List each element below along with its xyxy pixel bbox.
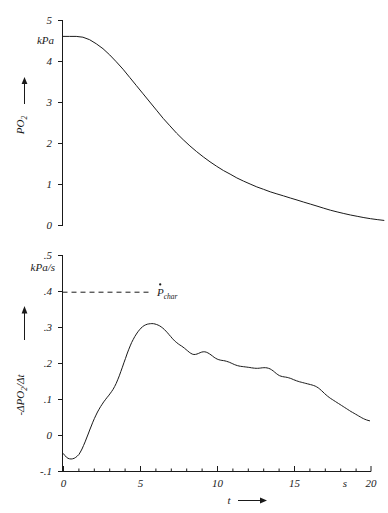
xticklabel-20: 20 (366, 477, 378, 489)
top-y-axis-title: PO2 (14, 77, 29, 135)
x-unit-label: s (343, 477, 347, 489)
bottom-yticklabel-p2: .2 (44, 357, 53, 369)
top-yticklabel-3: 3 (46, 96, 53, 108)
bottom-yticklabel-p4: .4 (44, 285, 53, 297)
x-axis-arrow-head (260, 498, 267, 504)
bottom-y-axis-title: -ΔPO2/Δt (14, 306, 29, 416)
bottom-yticklabel-p3: .3 (44, 321, 53, 333)
bottom-yticklabel-0: 0 (47, 429, 53, 441)
svg-text:Pchar: Pchar (156, 286, 178, 301)
xticklabel-5: 5 (138, 477, 144, 489)
bottom-axis-arrow-head (22, 306, 28, 314)
top-panel: 5 4 3 2 1 0 kPa PO2 (14, 14, 384, 231)
bottom-curve-rate (63, 324, 369, 459)
top-curve-po2 (63, 36, 384, 220)
bottom-yticklabel-p5: .5 (44, 249, 53, 261)
top-unit-label: kPa (37, 34, 55, 46)
pchar-overdot-icon (159, 283, 161, 285)
pchar-sub: char (164, 292, 178, 301)
top-yticklabel-1: 1 (47, 178, 53, 190)
top-yticklabel-2: 2 (47, 137, 53, 149)
bottom-unit-label: kPa/s (31, 261, 55, 273)
figure-svg: 5 4 3 2 1 0 kPa PO2 .5 (0, 0, 388, 513)
svg-text:-ΔPO2/Δt: -ΔPO2/Δt (14, 374, 29, 416)
x-axis-name: t (227, 494, 231, 506)
bottom-yticklabel-m1: -.1 (40, 465, 52, 477)
bottom-axis-name-prefix: -ΔPO (14, 391, 26, 416)
top-axis-name-sub: 2 (20, 116, 29, 120)
x-axis-title: t (227, 494, 267, 506)
bottom-panel: .5 .4 .3 .2 .1 0 -.1 kPa/s -ΔPO2/Δt (14, 249, 377, 506)
top-yticklabel-5: 5 (47, 14, 53, 26)
top-yticklabel-4: 4 (47, 55, 53, 67)
bottom-yticklabel-p1: .1 (44, 393, 52, 405)
xticklabel-0: 0 (61, 477, 67, 489)
figure-canvas: 5 4 3 2 1 0 kPa PO2 .5 (0, 0, 388, 513)
svg-text:PO2: PO2 (14, 116, 29, 136)
bottom-axis-name-suffix: /Δt (14, 374, 26, 389)
top-axis-name: PO (14, 119, 26, 135)
pchar-annotation: Pchar (156, 283, 178, 300)
xticklabel-10: 10 (212, 477, 224, 489)
top-yticklabel-0: 0 (47, 219, 53, 231)
xticklabel-15: 15 (289, 477, 301, 489)
top-axis-arrow-head (22, 77, 28, 84)
